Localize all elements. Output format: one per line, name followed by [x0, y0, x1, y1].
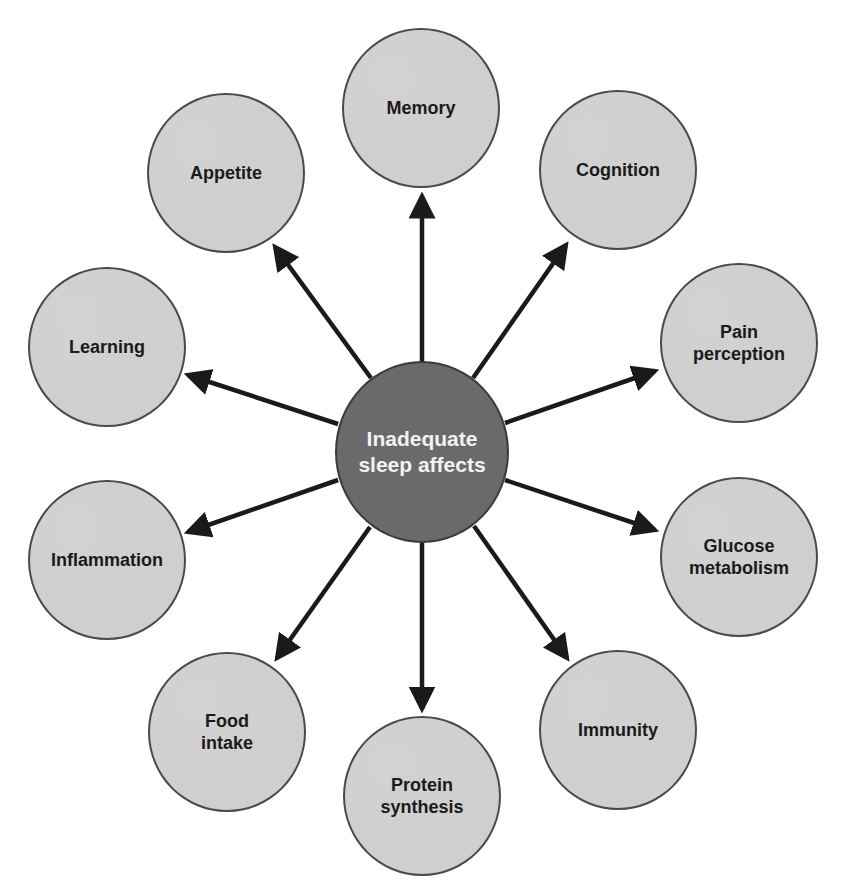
center-label-line1: Inadequate — [348, 426, 495, 452]
node-label-line2: perception — [683, 343, 795, 366]
arrow-to-appetite — [275, 247, 371, 378]
arrow-to-glucose-metabolism — [505, 480, 655, 530]
node-label-line2: synthesis — [370, 796, 473, 819]
node-protein-synthesis: Protein synthesis — [343, 716, 501, 876]
node-label-line1: Protein — [370, 774, 473, 797]
arrow-to-cognition — [473, 245, 566, 378]
node-label: Appetite — [180, 162, 272, 185]
node-label-line2: metabolism — [679, 557, 799, 580]
node-appetite: Appetite — [147, 93, 305, 253]
node-label-line1: Glucose — [679, 535, 799, 558]
node-label: Cognition — [566, 159, 670, 182]
center-label-line2: sleep affects — [348, 452, 495, 478]
node-label: Memory — [376, 97, 465, 120]
node-label-line1: Food — [191, 710, 263, 733]
node-immunity: Immunity — [539, 650, 697, 810]
node-memory: Memory — [342, 28, 500, 188]
node-learning: Learning — [28, 267, 186, 427]
sleep-effects-diagram: Inadequate sleep affects Memory Cognitio… — [0, 0, 844, 896]
node-cognition: Cognition — [539, 90, 697, 250]
node-label: Inflammation — [41, 549, 173, 572]
arrow-to-immunity — [474, 526, 567, 658]
node-label-line1: Pain — [683, 321, 795, 344]
arrow-to-food-intake — [277, 527, 370, 658]
arrow-to-inflammation — [188, 480, 338, 532]
node-label-line2: intake — [191, 732, 263, 755]
node-label: Learning — [59, 336, 155, 359]
center-node: Inadequate sleep affects — [335, 361, 509, 543]
node-food-intake: Food intake — [148, 652, 306, 812]
arrow-to-learning — [188, 375, 338, 424]
node-inflammation: Inflammation — [28, 480, 186, 640]
arrow-to-pain-perception — [505, 371, 655, 423]
node-label: Immunity — [568, 719, 668, 742]
node-glucose-metabolism: Glucose metabolism — [660, 477, 818, 637]
node-pain-perception: Pain perception — [660, 263, 818, 423]
